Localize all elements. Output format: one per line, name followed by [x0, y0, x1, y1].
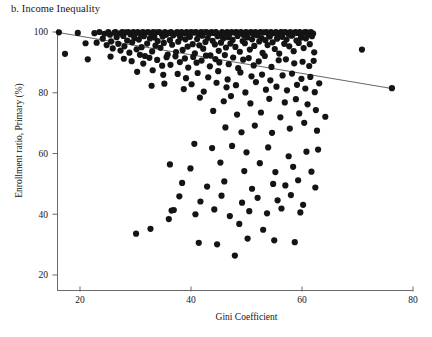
data-point — [232, 252, 238, 258]
y-tick-label: 40 — [39, 210, 49, 220]
data-point — [240, 57, 246, 63]
data-point — [159, 63, 165, 69]
data-point — [307, 74, 313, 80]
data-point — [137, 52, 143, 58]
data-point — [192, 211, 198, 217]
data-point — [265, 144, 271, 150]
data-point — [307, 41, 313, 47]
data-point — [225, 76, 231, 82]
data-point — [302, 85, 308, 91]
data-point — [154, 57, 160, 63]
data-point — [295, 177, 301, 183]
data-point — [205, 74, 211, 80]
data-point — [175, 71, 181, 77]
data-point — [276, 57, 282, 63]
data-point — [161, 40, 167, 46]
tick-labels-layer: 2040608020406080100 — [34, 27, 418, 305]
data-point — [134, 69, 140, 75]
data-point — [204, 184, 210, 190]
scatter-plot-canvas: 2040608020406080100 — [0, 0, 432, 337]
data-point — [257, 160, 263, 166]
data-point — [190, 54, 196, 60]
data-point — [197, 95, 203, 101]
data-point — [310, 30, 316, 36]
y-tick-label: 20 — [39, 270, 49, 280]
data-point — [176, 193, 182, 199]
data-point — [197, 198, 203, 204]
data-point — [298, 76, 304, 82]
data-point — [247, 100, 253, 106]
data-point — [283, 36, 289, 42]
data-point — [230, 37, 236, 43]
data-point — [279, 72, 285, 78]
data-point — [242, 89, 248, 95]
data-point — [246, 55, 252, 61]
data-point — [179, 180, 185, 186]
y-tick-label: 80 — [39, 88, 49, 98]
data-point — [296, 110, 302, 116]
data-point — [210, 108, 216, 114]
data-point — [166, 216, 172, 222]
data-point — [359, 47, 365, 53]
data-point — [234, 112, 240, 118]
data-point — [147, 226, 153, 232]
data-point — [198, 57, 204, 63]
data-point — [314, 128, 320, 134]
data-point — [248, 73, 254, 79]
data-point — [306, 63, 312, 69]
data-point — [187, 165, 193, 171]
data-point — [316, 80, 322, 86]
data-point — [161, 81, 167, 87]
data-point — [308, 169, 314, 175]
data-point — [75, 30, 81, 36]
data-point — [389, 85, 395, 91]
data-point — [226, 61, 232, 67]
data-point — [238, 129, 244, 135]
data-point — [312, 89, 318, 95]
y-tick-label: 60 — [39, 149, 49, 159]
data-point — [172, 53, 178, 59]
data-point — [167, 161, 173, 167]
data-point — [282, 182, 288, 188]
data-point — [237, 49, 243, 55]
data-point — [82, 40, 88, 46]
ticks-layer — [53, 32, 414, 292]
data-point — [258, 109, 264, 115]
data-point — [260, 227, 266, 233]
data-point — [133, 231, 139, 237]
data-points-layer — [56, 29, 395, 259]
data-point — [301, 45, 307, 51]
y-tick-label: 100 — [34, 27, 49, 37]
data-point — [277, 114, 283, 120]
data-point — [218, 193, 224, 199]
data-point — [200, 46, 206, 52]
data-point — [291, 60, 297, 66]
data-point — [85, 56, 91, 62]
data-point — [252, 122, 258, 128]
data-point — [155, 38, 161, 44]
data-point — [146, 55, 152, 61]
data-point — [212, 41, 218, 47]
data-point — [243, 149, 249, 155]
data-point — [203, 53, 209, 59]
data-point — [121, 56, 127, 62]
data-point — [149, 48, 155, 54]
data-point — [237, 69, 243, 75]
data-point — [286, 153, 292, 159]
data-point — [267, 77, 273, 83]
data-point — [221, 178, 227, 184]
data-point — [121, 43, 127, 49]
data-point — [239, 200, 245, 206]
data-point — [256, 58, 262, 64]
data-point — [263, 87, 269, 93]
x-tick-label: 20 — [75, 295, 85, 305]
data-point — [148, 83, 154, 89]
data-point — [283, 56, 289, 62]
data-point — [182, 55, 188, 61]
data-point — [232, 44, 238, 50]
data-point — [160, 72, 166, 78]
data-point — [291, 48, 297, 54]
data-point — [294, 82, 300, 88]
data-point — [185, 64, 191, 70]
data-point — [293, 96, 299, 102]
